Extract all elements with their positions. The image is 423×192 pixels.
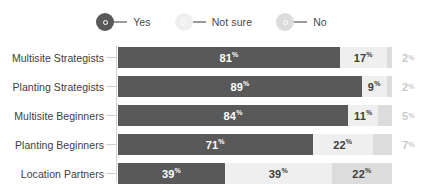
category-label: Location Partners [0,168,104,180]
chart-row: Planting Beginners71%22%7% [0,134,423,155]
legend-item-not-sure[interactable]: Not sure [175,13,252,31]
bar-value-label: 17% [354,51,373,64]
bar-segment-yes[interactable]: 89% [118,76,362,97]
bar-value-label-outside: 7% [402,134,415,155]
legend-item-label: Yes [133,16,150,28]
bar-value-label-outside: 2% [402,76,415,97]
bar-value-label-outside: 5% [402,105,415,126]
chart-legend: YesNot sureNo [0,0,423,44]
axis-tick [106,86,117,87]
bar-segment-no[interactable] [387,76,392,97]
bar-segment-not-sure[interactable]: 17% [340,47,387,68]
bar-value-label: 39% [269,167,288,180]
axis-tick [106,115,117,116]
legend-item-label: No [313,16,327,28]
legend-connector-line [294,21,307,23]
stacked-bar: 81%17%2% [118,47,392,68]
bar-segment-no[interactable] [373,134,392,155]
category-label: Planting Beginners [0,139,104,151]
chart-row: Multisite Strategists81%17%2% [0,47,423,68]
bar-value-label: 81% [219,51,238,64]
stacked-bar: 84%11%5% [118,105,392,126]
bar-value-label: 71% [206,138,225,151]
chart-row: Location Partners39%39%22% [0,163,423,184]
stacked-bar: 89%9%2% [118,76,392,97]
bar-segment-not-sure[interactable]: 39% [225,163,332,184]
legend-marker-center-icon [181,20,186,25]
bar-value-label-outside: 2% [402,47,415,68]
axis-tick [106,173,117,174]
circle-marker-icon [175,13,193,31]
bar-segment-not-sure[interactable]: 22% [313,134,373,155]
legend-item-yes[interactable]: Yes [96,13,150,31]
category-label: Planting Strategists [0,81,104,93]
chart-row: Multisite Beginners84%11%5% [0,105,423,126]
bar-segment-yes[interactable]: 81% [118,47,340,68]
bar-segment-no[interactable] [378,105,392,126]
chart-row: Planting Strategists89%9%2% [0,76,423,97]
circle-marker-icon [96,13,114,31]
bar-value-label: 9% [368,80,381,93]
stacked-bar-chart: Multisite Strategists81%17%2%Planting St… [0,44,423,192]
bar-value-label: 22% [352,167,371,180]
stacked-bar: 39%39%22% [118,163,392,184]
legend-marker-center-icon [283,20,288,25]
legend-connector-line [193,21,206,23]
stacked-bar: 71%22%7% [118,134,392,155]
circle-marker-icon [276,13,294,31]
axis-tick [106,57,117,58]
legend-marker-center-icon [103,20,108,25]
bar-segment-not-sure[interactable]: 9% [362,76,387,97]
category-label: Multisite Beginners [0,110,104,122]
bar-value-label: 39% [162,167,181,180]
legend-item-no[interactable]: No [276,13,327,31]
axis-tick [106,144,117,145]
bar-segment-no[interactable] [387,47,392,68]
bar-segment-no[interactable]: 22% [332,163,392,184]
bar-value-label: 84% [224,109,243,122]
legend-item-label: Not sure [212,16,252,28]
bar-segment-not-sure[interactable]: 11% [348,105,378,126]
bar-segment-yes[interactable]: 84% [118,105,348,126]
bar-value-label: 89% [230,80,249,93]
bar-value-label: 11% [354,109,372,122]
bar-segment-yes[interactable]: 39% [118,163,225,184]
bar-segment-yes[interactable]: 71% [118,134,313,155]
category-label: Multisite Strategists [0,52,104,64]
bar-value-label: 22% [333,138,352,151]
legend-connector-line [114,21,127,23]
